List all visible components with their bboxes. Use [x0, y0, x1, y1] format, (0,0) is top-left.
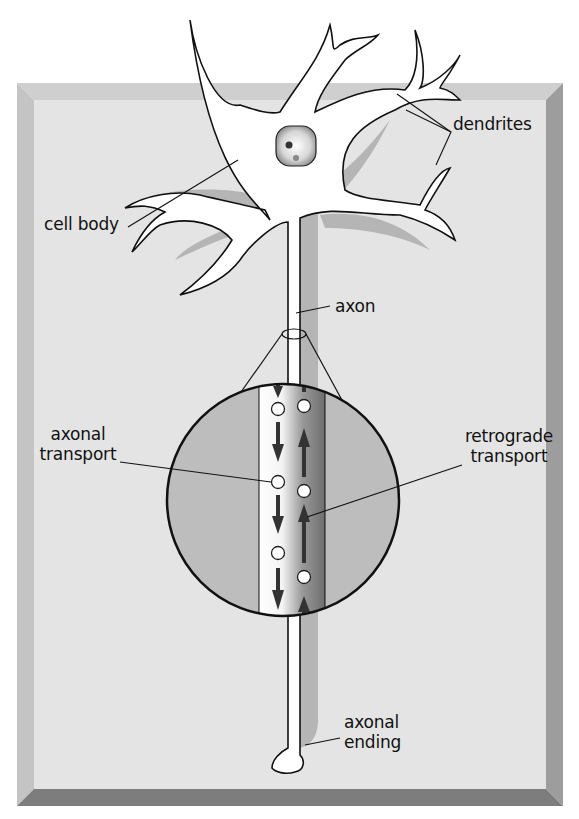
- label-cell-body: cell body: [44, 214, 119, 234]
- label-retrograde-transport-line1: retrograde: [458, 426, 560, 446]
- label-axonal-transport-line1: axonal: [34, 424, 122, 444]
- label-axonal-transport-line2: transport: [34, 444, 122, 464]
- label-dendrites: dendrites: [453, 114, 532, 134]
- label-axonal-ending-line2: ending: [344, 732, 414, 752]
- label-retrograde-transport-line2: transport: [458, 446, 560, 466]
- nucleus: [276, 126, 316, 166]
- label-retrograde-transport: retrograde transport: [458, 426, 560, 466]
- neuron-diagram: dendrites cell body axon axonal transpor…: [0, 0, 579, 819]
- label-axonal-transport: axonal transport: [34, 424, 122, 464]
- magnified-axon-view: [167, 380, 399, 620]
- label-axonal-ending: axonal ending: [344, 712, 414, 752]
- label-axonal-ending-line1: axonal: [344, 712, 414, 732]
- label-axon: axon: [335, 296, 375, 316]
